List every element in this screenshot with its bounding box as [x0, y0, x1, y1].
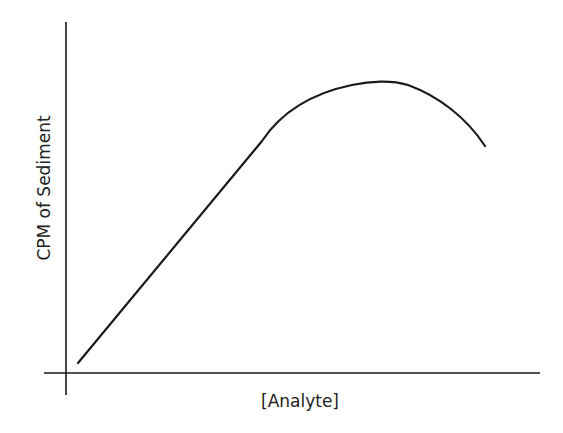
chart: [Analyte] CPM of Sediment: [0, 0, 563, 433]
data-curve: [78, 82, 485, 363]
y-axis-label: CPM of Sediment: [34, 115, 54, 261]
x-axis-label: [Analyte]: [261, 391, 339, 411]
